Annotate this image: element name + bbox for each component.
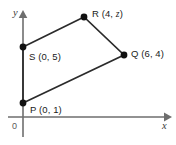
vertex-label-p: P (0, 1) [30,105,62,115]
x-axis-label: x [162,121,167,132]
figure-canvas [0,0,176,145]
vertex-dot-s [20,44,27,51]
y-axis-arrowhead [19,10,28,18]
coordinate-figure: R (4, z) Q (6, 4) S (0, 5) P (0, 1) y x … [0,0,176,145]
vertex-label-q: Q (6, 4) [131,49,164,59]
vertex-label-r: R (4, z) [92,9,123,20]
unknown-symbol-z: z [116,9,120,19]
vertex-dot-p [20,100,27,107]
vertex-dot-q [121,52,128,59]
y-axis-label: y [13,8,18,19]
origin-label: 0 [12,122,17,131]
vertex-label-s: S (0, 5) [29,52,61,62]
vertex-dot-r [81,14,88,21]
